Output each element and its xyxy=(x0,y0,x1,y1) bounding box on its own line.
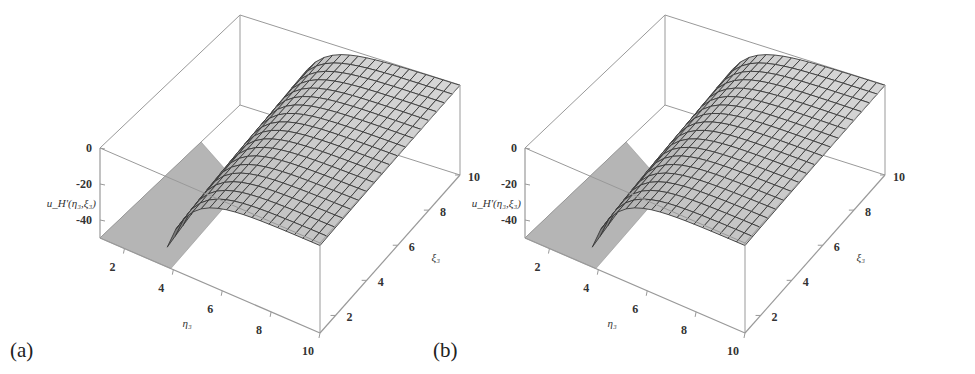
eta-tick-label: 8 xyxy=(681,323,687,337)
xi-tick-label: 4 xyxy=(803,275,809,289)
panel-b: 0-20-40u_H'(η₃,ξ₃)246810η₃246810ξ₃ (b) xyxy=(425,0,912,374)
eta-tick-label: 4 xyxy=(158,281,164,295)
xi-tick-label: 2 xyxy=(347,310,353,324)
eta-axis-label: η₃ xyxy=(608,317,617,329)
z-tick-label: -20 xyxy=(76,177,92,191)
xi-axis-label: ξ₃ xyxy=(857,251,866,264)
eta-tick-label: 2 xyxy=(534,260,540,274)
eta-tick-label: 8 xyxy=(256,323,262,337)
xi-tick-label: 6 xyxy=(409,240,415,254)
z-tick-label: -20 xyxy=(501,177,517,191)
eta-axis-label: η₃ xyxy=(183,317,192,329)
xi-tick-label: 6 xyxy=(834,240,840,254)
panel-label-a: (a) xyxy=(10,338,33,363)
xi-tick-label: 2 xyxy=(772,310,778,324)
surface-plot-a: 0-20-40u_H'(η₃,ξ₃)246810η₃246810ξ₃ xyxy=(0,0,487,374)
panel-label-b: (b) xyxy=(433,338,458,363)
eta-tick-label: 6 xyxy=(632,302,638,316)
eta-tick-label: 10 xyxy=(302,344,314,358)
z-axis-label: u_H'(η₃,ξ₃) xyxy=(472,197,522,210)
xi-tick-label: 8 xyxy=(865,205,871,219)
z-tick-label: 0 xyxy=(511,141,517,155)
xi-tick-label: 10 xyxy=(893,170,905,184)
z-tick-label: -40 xyxy=(76,213,92,227)
panel-a: 0-20-40u_H'(η₃,ξ₃)246810η₃246810ξ₃ (a) xyxy=(0,0,487,374)
z-tick-label: -40 xyxy=(501,213,517,227)
z-axis-label: u_H'(η₃,ξ₃) xyxy=(47,197,97,210)
z-tick-label: 0 xyxy=(86,141,92,155)
eta-tick-label: 4 xyxy=(583,281,589,295)
eta-tick-label: 6 xyxy=(207,302,213,316)
eta-tick-label: 10 xyxy=(727,344,739,358)
surface-plot-b: 0-20-40u_H'(η₃,ξ₃)246810η₃246810ξ₃ xyxy=(425,0,975,374)
xi-tick-label: 4 xyxy=(378,275,384,289)
eta-tick-label: 2 xyxy=(109,260,115,274)
